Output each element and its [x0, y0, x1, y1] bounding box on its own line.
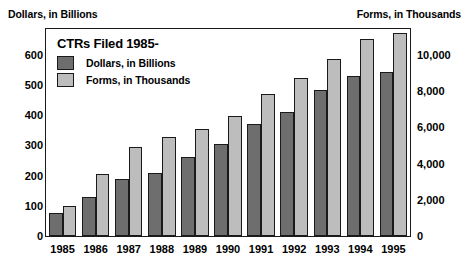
legend-label: Forms, in Thousands — [86, 74, 190, 86]
bar-forms — [228, 116, 242, 236]
x-tick-label: 1988 — [150, 243, 174, 255]
bar-group — [344, 29, 377, 236]
legend-swatch-icon — [57, 56, 74, 70]
legend-label: Dollars, in Billions — [86, 57, 176, 69]
legend-entry: Dollars, in Billions — [57, 56, 217, 70]
right-tick-label: 10,000 — [417, 49, 451, 61]
bar-dollars — [49, 213, 63, 236]
bar-dollars — [380, 72, 394, 236]
x-tick-label: 1994 — [348, 243, 372, 255]
chart-legend: CTRs Filed 1985- Dollars, in BillionsFor… — [57, 36, 217, 90]
bar-forms — [294, 78, 308, 236]
left-tick-label: 500 — [25, 79, 43, 91]
bar-dollars — [247, 124, 261, 236]
left-tick-label: 600 — [25, 49, 43, 61]
bar-dollars — [115, 179, 129, 236]
bar-dollars — [280, 112, 294, 236]
bar-dollars — [148, 173, 162, 236]
bar-forms — [195, 129, 209, 236]
legend-entries: Dollars, in BillionsForms, in Thousands — [57, 56, 217, 87]
x-tick-label: 1995 — [381, 243, 405, 255]
x-tick-label: 1990 — [216, 243, 240, 255]
bar-forms — [162, 137, 176, 236]
bar-forms — [96, 174, 110, 236]
bar-dollars — [347, 76, 361, 236]
bar-forms — [360, 39, 374, 236]
right-axis-caption: Forms, in Thousands — [357, 8, 461, 20]
bar-forms — [327, 59, 341, 236]
bar-forms — [129, 147, 143, 236]
right-tick-label: 6,000 — [417, 121, 445, 133]
bar-group — [377, 29, 410, 236]
ctrs-filed-bar-chart: Dollars, in Billions Forms, in Thousands… — [0, 0, 467, 270]
bar-dollars — [181, 157, 195, 236]
right-tick-label: 4,000 — [417, 158, 445, 170]
right-tick-label: 0 — [417, 230, 423, 242]
left-tick-label: 100 — [25, 200, 43, 212]
legend-entry: Forms, in Thousands — [57, 73, 217, 87]
legend-swatch-icon — [57, 73, 74, 87]
bar-group — [245, 29, 278, 236]
x-tick-label: 1986 — [83, 243, 107, 255]
chart-title: CTRs Filed 1985- — [57, 36, 217, 51]
bar-forms — [63, 206, 77, 236]
bar-group — [278, 29, 311, 236]
x-tick-label: 1987 — [116, 243, 140, 255]
bar-dollars — [314, 90, 328, 236]
right-tick-label: 8,000 — [417, 85, 445, 97]
left-tick-label: 400 — [25, 109, 43, 121]
x-tick-label: 1985 — [50, 243, 74, 255]
x-tick-label: 1989 — [183, 243, 207, 255]
left-axis-caption: Dollars, in Billions — [8, 8, 98, 20]
left-tick-label: 0 — [37, 230, 43, 242]
bar-forms — [261, 94, 275, 236]
bar-dollars — [82, 197, 96, 236]
bar-dollars — [214, 144, 228, 236]
left-tick-label: 200 — [25, 170, 43, 182]
bar-forms — [393, 33, 407, 236]
x-tick-label: 1992 — [282, 243, 306, 255]
right-tick-label: 2,000 — [417, 194, 445, 206]
x-tick-label: 1991 — [249, 243, 273, 255]
left-tick-label: 300 — [25, 139, 43, 151]
bar-group — [311, 29, 344, 236]
x-tick-label: 1993 — [315, 243, 339, 255]
